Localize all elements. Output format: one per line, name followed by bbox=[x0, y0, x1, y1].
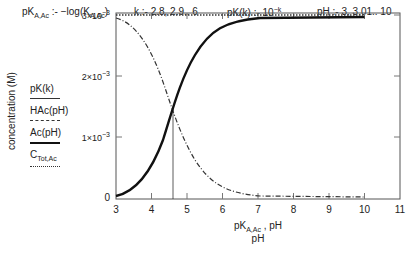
legend-hac: HAc(pH) bbox=[30, 105, 68, 116]
x-tick-3: 3 bbox=[106, 204, 126, 215]
legend-ctot: CTot,Ac bbox=[30, 149, 57, 162]
y-tick-marks bbox=[116, 15, 400, 137]
y-tick-2e-3: 2×10−3 bbox=[50, 70, 110, 82]
legend-ctot-swatch bbox=[30, 166, 60, 167]
legend-hac-swatch bbox=[30, 120, 60, 121]
x-tick-9: 9 bbox=[319, 204, 339, 215]
y-tick-0: 0 bbox=[50, 192, 110, 203]
x-tick-11: 11 bbox=[390, 204, 410, 215]
x-axis-label: pKA,Ac , pH bbox=[198, 220, 318, 233]
x-axis-label-ph: pH bbox=[198, 233, 318, 244]
y-tick-1e-3: 1×10−3 bbox=[50, 131, 110, 143]
x-tick-8: 8 bbox=[284, 204, 304, 215]
plot-area bbox=[0, 0, 411, 253]
x-tick-marks bbox=[152, 13, 365, 199]
legend-pk: pK(k) bbox=[30, 83, 54, 94]
hac-curve bbox=[116, 18, 365, 197]
ac-curve bbox=[116, 17, 365, 196]
y-tick-3e-3: 3×10−3 bbox=[50, 9, 110, 21]
x-tick-5: 5 bbox=[177, 204, 197, 215]
x-tick-7: 7 bbox=[248, 204, 268, 215]
x-tick-4: 4 bbox=[142, 204, 162, 215]
x-tick-10: 10 bbox=[355, 204, 375, 215]
legend-pk-swatch bbox=[30, 98, 60, 99]
x-tick-6: 6 bbox=[213, 204, 233, 215]
y-axis-label: concentration (M) bbox=[6, 72, 17, 150]
plot-frame bbox=[116, 13, 400, 199]
